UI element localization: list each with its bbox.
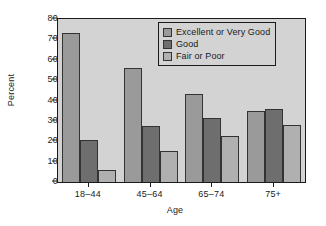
bar — [98, 170, 116, 182]
x-axis-tick-mark — [273, 182, 274, 187]
legend-item: Good — [163, 38, 270, 50]
bar — [283, 125, 301, 182]
bar — [265, 109, 283, 182]
bar — [221, 136, 239, 182]
bar — [124, 68, 142, 182]
legend-item: Fair or Poor — [163, 50, 270, 62]
x-axis-tick-mark — [211, 182, 212, 187]
legend-item: Excellent or Very Good — [163, 26, 270, 38]
x-axis-tick-label: 18–44 — [58, 189, 118, 199]
legend-label: Good — [176, 39, 198, 49]
bar — [247, 111, 265, 182]
bar — [185, 94, 203, 182]
bar — [62, 33, 80, 182]
chart-legend: Excellent or Very GoodGoodFair or Poor — [158, 22, 276, 66]
bar — [80, 140, 98, 182]
x-axis-tick-label: 75+ — [243, 189, 303, 199]
legend-swatch-icon — [163, 28, 172, 37]
legend-label: Fair or Poor — [176, 51, 225, 61]
x-axis-title: Age — [46, 205, 304, 215]
bar — [160, 151, 178, 182]
bar-group — [62, 19, 116, 182]
legend-label: Excellent or Very Good — [176, 27, 270, 37]
bar — [142, 126, 160, 182]
legend-swatch-icon — [163, 40, 172, 49]
bar-chart-figure: Percent 01020304050607080 18–4445–6465–7… — [0, 0, 326, 226]
bar — [203, 118, 221, 182]
x-axis-tick-mark — [88, 182, 89, 187]
legend-swatch-icon — [163, 52, 172, 61]
x-axis-tick-mark — [150, 182, 151, 187]
x-axis-tick-label: 65–74 — [181, 189, 241, 199]
x-axis-tick-label: 45–64 — [120, 189, 180, 199]
